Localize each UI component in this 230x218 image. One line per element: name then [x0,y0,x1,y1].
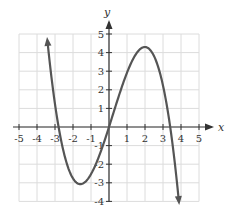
y-axis-arrow-icon [106,20,113,29]
x-tick-label: -2 [68,133,78,144]
y-tick-label: 5 [98,29,104,40]
y-tick-label: 1 [98,103,104,114]
x-axis-label: x [218,121,225,134]
y-tick-label: 2 [98,84,104,95]
tick-labels: -5-4-3-2-112345-4-3-2-112345 [14,29,202,207]
x-tick-label: 5 [196,133,202,144]
x-tick-label: 4 [178,133,184,144]
y-tick-label: -4 [94,196,104,207]
x-tick-label: 3 [160,133,166,144]
x-tick-label: 1 [124,133,130,144]
y-tick-label: 3 [98,66,104,77]
x-tick-label: 2 [142,133,148,144]
function-graph: -5-4-3-2-112345-4-3-2-112345 x y [0,0,230,218]
curve-arrow-icon [44,37,51,46]
x-tick-label: -4 [32,133,42,144]
x-tick-label: -5 [14,133,24,144]
y-axis-label: y [103,6,111,19]
x-axis-arrow-icon [205,124,214,131]
y-tick-label: 4 [98,47,104,58]
cubic-curve [47,41,178,201]
y-tick-label: -3 [94,177,104,188]
x-tick-label: -3 [50,133,60,144]
curve-arrows [44,37,181,205]
